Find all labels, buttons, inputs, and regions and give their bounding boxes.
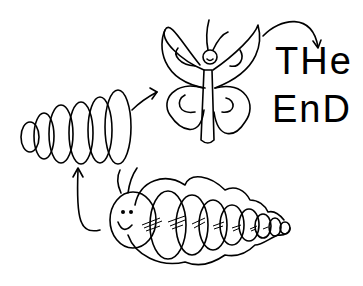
- chrysalis: [21, 90, 131, 164]
- caption-line-2: EnD: [272, 90, 352, 128]
- caption-line-1: THe: [275, 42, 353, 80]
- lifecycle-drawing: THe EnD: [0, 0, 363, 286]
- arrow-to-butterfly-icon: [132, 88, 157, 110]
- caterpillar: [110, 168, 290, 264]
- butterfly: [162, 20, 260, 143]
- arrow-to-chrysalis-icon: [73, 168, 100, 231]
